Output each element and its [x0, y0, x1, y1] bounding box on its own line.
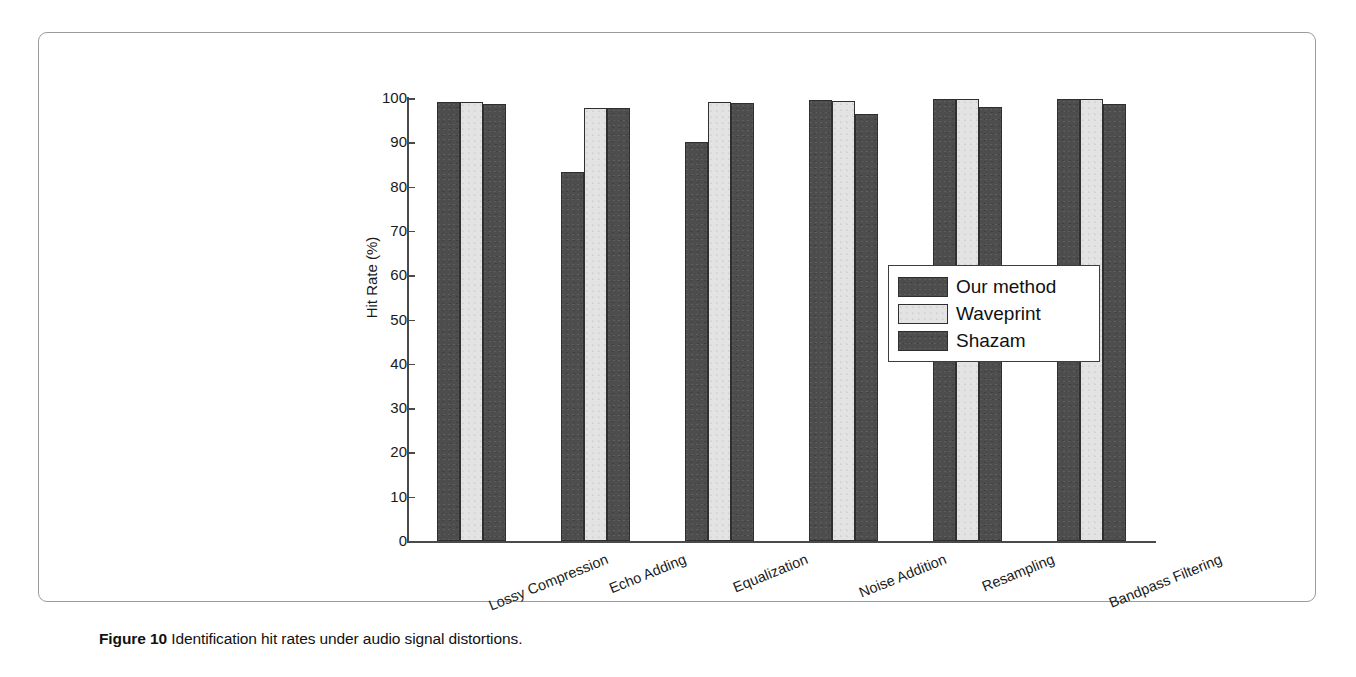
figure-caption: Figure 10 Identification hit rates under…: [99, 630, 522, 648]
bar-group: [437, 98, 506, 541]
figure-caption-label: Figure 10: [99, 630, 167, 647]
bar: [483, 104, 506, 541]
legend-item: Waveprint: [898, 300, 1090, 327]
y-axis-tick-label: 70: [365, 222, 407, 239]
legend-item: Our method: [898, 273, 1090, 300]
bar: [437, 102, 460, 541]
y-axis-tick-label: 100: [365, 89, 407, 106]
bar: [832, 101, 855, 541]
chart-legend: Our method Waveprint Shazam: [888, 265, 1100, 362]
legend-swatch-our-method: [898, 277, 948, 297]
legend-item: Shazam: [898, 327, 1090, 354]
bar: [855, 114, 878, 541]
y-axis-tick-label: 30: [365, 399, 407, 416]
x-axis-label: Equalization: [731, 551, 810, 595]
bar: [607, 108, 630, 541]
x-axis-label: Noise Addition: [856, 551, 948, 601]
figure-caption-text: Identification hit rates under audio sig…: [171, 630, 522, 647]
figure-card: Hit Rate (%) 0102030405060708090100 Loss…: [38, 32, 1316, 602]
y-axis-tick-label: 80: [365, 178, 407, 195]
legend-swatch-shazam: [898, 331, 948, 351]
y-axis-tick: [407, 541, 415, 543]
x-axis-label: Bandpass Filtering: [1107, 551, 1224, 611]
legend-swatch-waveprint: [898, 304, 948, 324]
x-axis-label: Resampling: [979, 551, 1056, 595]
legend-label-our-method: Our method: [956, 276, 1056, 298]
legend-label-waveprint: Waveprint: [956, 303, 1041, 325]
bar: [809, 100, 832, 541]
bar: [1103, 104, 1126, 541]
y-axis-tick-label: 0: [365, 532, 407, 549]
y-axis-tick-label: 40: [365, 355, 407, 372]
y-axis-tick-label: 50: [365, 311, 407, 328]
y-axis-tick-label: 20: [365, 443, 407, 460]
bar-group: [809, 98, 878, 541]
bar: [708, 102, 731, 541]
legend-label-shazam: Shazam: [956, 330, 1026, 352]
bar: [685, 142, 708, 541]
bar-group: [561, 98, 630, 541]
y-axis-tick-label: 90: [365, 133, 407, 150]
x-axis-line: [407, 541, 1156, 543]
bar: [561, 172, 584, 541]
bar: [731, 103, 754, 541]
x-axis-label: Lossy Compression: [486, 551, 610, 614]
bar: [584, 108, 607, 541]
x-axis-label: Echo Adding: [607, 551, 689, 596]
bar-group: [685, 98, 754, 541]
bar: [460, 102, 483, 541]
y-axis-tick-label: 10: [365, 488, 407, 505]
y-axis-tick-label: 60: [365, 266, 407, 283]
